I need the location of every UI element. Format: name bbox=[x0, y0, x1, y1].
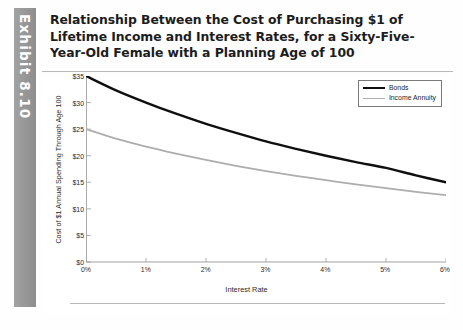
chart-panel: Cost of $1 Annual Spending Through Age 1… bbox=[42, 76, 451, 314]
exhibit-label: Exhibit 8.10 bbox=[17, 14, 33, 119]
x-axis-ticks: 0%1%2%3%4%5%6% bbox=[86, 266, 445, 280]
legend-line-icon-bonds bbox=[363, 87, 385, 89]
y-tick-label: $15 bbox=[73, 179, 85, 186]
x-axis-title: Interest Rate bbox=[42, 285, 451, 294]
legend-item-bonds: Bonds bbox=[363, 83, 436, 93]
y-tick-label: $0 bbox=[76, 259, 84, 266]
exhibit-band: Exhibit 8.10 bbox=[14, 8, 36, 307]
legend-label-bonds: Bonds bbox=[389, 83, 409, 93]
y-tick-label: $25 bbox=[73, 126, 85, 133]
y-axis-ticks: $0$5$10$15$20$25$30$35 bbox=[62, 76, 84, 262]
legend-label-income-annuity: Income Annuity bbox=[389, 93, 436, 103]
plot-area: Cost of $1 Annual Spending Through Age 1… bbox=[42, 76, 451, 314]
header-divider bbox=[42, 71, 453, 72]
y-tick-label: $20 bbox=[73, 152, 85, 159]
series-line bbox=[86, 129, 446, 195]
footer-divider bbox=[70, 303, 445, 304]
y-tick-label: $10 bbox=[73, 205, 85, 212]
legend-line-icon-income-annuity bbox=[363, 98, 385, 99]
y-tick-label: $5 bbox=[76, 232, 84, 239]
exhibit-header: Relationship Between the Cost of Purchas… bbox=[42, 8, 451, 72]
y-tick-label: $30 bbox=[73, 99, 85, 106]
legend-item-income-annuity: Income Annuity bbox=[363, 93, 436, 103]
exhibit-page: Exhibit 8.10 Relationship Between the Co… bbox=[0, 0, 463, 330]
chart-legend: Bonds Income Annuity bbox=[358, 80, 442, 107]
y-tick-label: $35 bbox=[73, 73, 85, 80]
exhibit-title: Relationship Between the Cost of Purchas… bbox=[42, 8, 451, 62]
